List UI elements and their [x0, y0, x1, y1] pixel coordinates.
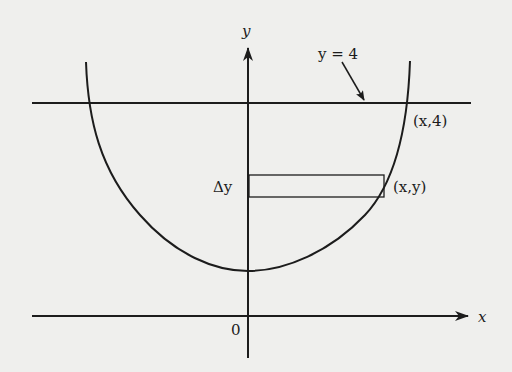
- x-axis-label: x: [478, 308, 487, 326]
- strip-rectangle: [249, 175, 384, 197]
- y-axis-label: y: [241, 22, 251, 40]
- line-label: y = 4: [317, 45, 358, 63]
- point-label-strip: (x,y): [393, 178, 426, 196]
- delta-y-label: Δy: [213, 178, 233, 196]
- pointer-arrow: [342, 62, 364, 100]
- point-label-top: (x,4): [413, 112, 447, 130]
- origin-label: 0: [231, 321, 241, 339]
- diagram-canvas: y x 0 y = 4 (x,4) (x,y) Δy: [0, 0, 512, 372]
